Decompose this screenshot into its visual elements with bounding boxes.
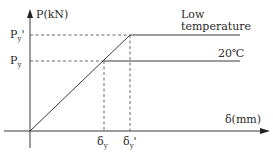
py-tick-label: Py xyxy=(10,55,21,69)
dy-tick-label: δy xyxy=(97,136,108,150)
py-prime-tick-label: Py' xyxy=(10,29,24,43)
y-axis-label: P(kN) xyxy=(36,9,68,20)
dy-prime-tick-label: δy' xyxy=(123,136,137,150)
y-axis-arrow-icon xyxy=(27,9,33,18)
x-axis-arrow-icon xyxy=(260,128,270,134)
room-temperature-label: 20℃ xyxy=(218,48,244,59)
low-temperature-label-line2: temperature xyxy=(181,21,251,32)
diagram: P(kN) Py' Py δy δy' δ(mm) Low temperatur… xyxy=(0,0,273,152)
low-temperature-label-line1: Low xyxy=(181,9,204,20)
elastic-line xyxy=(30,35,130,131)
x-axis-label: δ(mm) xyxy=(225,114,261,125)
